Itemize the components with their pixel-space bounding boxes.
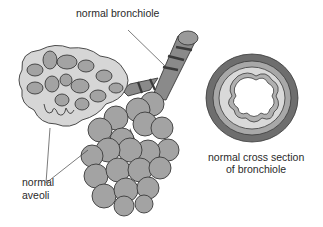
bronchiole-label: normal bronchiole <box>76 7 159 19</box>
bronchiole-leader-line <box>128 30 165 66</box>
bronchiole-tube <box>122 31 198 100</box>
bronchiole-cross-section <box>206 54 298 142</box>
cross-section-label-line1: normal cross section <box>208 151 304 163</box>
alveoli-label-line1: normal <box>22 176 54 188</box>
alveoli-label-line2: aveoli <box>22 189 49 201</box>
cross-section-label-line2: of bronchiole <box>226 163 286 175</box>
